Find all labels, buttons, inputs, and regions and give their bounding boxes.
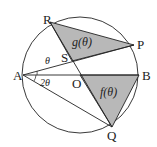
label-r: R (43, 12, 52, 27)
label-g-theta: g(θ) (72, 35, 92, 49)
label-b: B (142, 68, 151, 83)
label-q: Q (107, 128, 117, 143)
region-f (80, 75, 139, 127)
label-s: S (61, 50, 68, 65)
label-p: P (137, 37, 144, 52)
geometry-diagram: R P A B O Q S g(θ) f(θ) θ 2θ (0, 0, 157, 147)
label-a: A (13, 68, 23, 83)
label-o: O (72, 76, 81, 91)
label-f-theta: f(θ) (100, 85, 117, 99)
label-2theta: 2θ (40, 77, 50, 88)
label-theta: θ (45, 55, 50, 66)
angle-2theta-arc (34, 75, 36, 81)
